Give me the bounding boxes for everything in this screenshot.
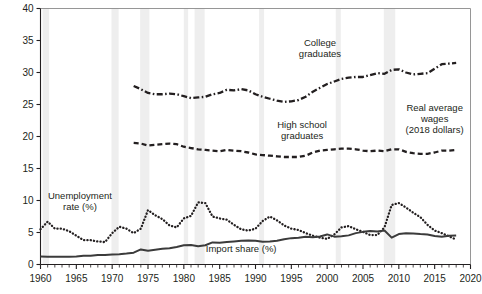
annotation-line: graduates bbox=[299, 48, 342, 59]
x-tick-label-1970: 1970 bbox=[101, 273, 124, 284]
y-tick-label-20: 20 bbox=[22, 131, 34, 142]
annotation-line: rate (%) bbox=[63, 201, 97, 212]
annotation-line: Unemployment bbox=[48, 190, 112, 201]
y-tick-label-25: 25 bbox=[22, 99, 34, 110]
y-tick-label-5: 5 bbox=[28, 227, 34, 238]
x-tick-label-2005: 2005 bbox=[352, 273, 375, 284]
annotation-line: (2018 dollars) bbox=[406, 124, 464, 135]
x-tick-label-1995: 1995 bbox=[280, 273, 303, 284]
x-tick-label-1980: 1980 bbox=[173, 273, 196, 284]
recession-band-5 bbox=[259, 9, 264, 265]
annotation-import-share: Import share (%) bbox=[206, 243, 277, 254]
recession-band-1 bbox=[111, 9, 118, 265]
x-tick-label-1965: 1965 bbox=[65, 273, 88, 284]
annotation-line: Import share (%) bbox=[206, 243, 277, 254]
y-tick-label-15: 15 bbox=[22, 163, 34, 174]
x-tick-label-2000: 2000 bbox=[316, 273, 339, 284]
annotation-line: graduates bbox=[281, 130, 324, 141]
annotation-line: Real average bbox=[406, 102, 463, 113]
recession-band-3 bbox=[184, 9, 188, 265]
x-tick-label-2010: 2010 bbox=[388, 273, 411, 284]
y-tick-label-35: 35 bbox=[22, 35, 34, 46]
x-tick-label-1990: 1990 bbox=[244, 273, 267, 284]
x-tick-label-2020: 2020 bbox=[459, 273, 482, 284]
chart-container: 0510152025303540 19601965197019751980198… bbox=[0, 0, 482, 294]
annotation-line: wages bbox=[420, 113, 449, 124]
annotation-line: College bbox=[304, 37, 336, 48]
x-tick-label-2015: 2015 bbox=[424, 273, 447, 284]
annotation-college-graduates: Collegegraduates bbox=[299, 37, 342, 59]
y-tick-label-10: 10 bbox=[22, 195, 34, 206]
y-tick-label-0: 0 bbox=[28, 259, 34, 270]
annotation-line: High school bbox=[277, 119, 327, 130]
line-chart: 0510152025303540 19601965197019751980198… bbox=[0, 0, 482, 294]
y-tick-label-40: 40 bbox=[22, 3, 34, 14]
x-tick-label-1960: 1960 bbox=[29, 273, 52, 284]
annotation-high-school-graduates: High schoolgraduates bbox=[277, 119, 327, 141]
x-tick-label-1975: 1975 bbox=[137, 273, 160, 284]
recession-band-4 bbox=[195, 9, 205, 265]
x-tick-label-1985: 1985 bbox=[209, 273, 232, 284]
y-tick-label-30: 30 bbox=[22, 67, 34, 78]
